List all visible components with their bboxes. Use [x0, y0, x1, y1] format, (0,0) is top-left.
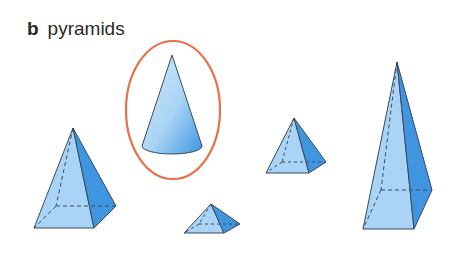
- pyramid-tall: [363, 62, 432, 229]
- pyramid-medium: [266, 118, 326, 173]
- pyramid-left: [34, 128, 116, 228]
- cone: [142, 55, 202, 154]
- pyramid-small-flat: [184, 204, 240, 233]
- shapes-diagram: [0, 0, 463, 256]
